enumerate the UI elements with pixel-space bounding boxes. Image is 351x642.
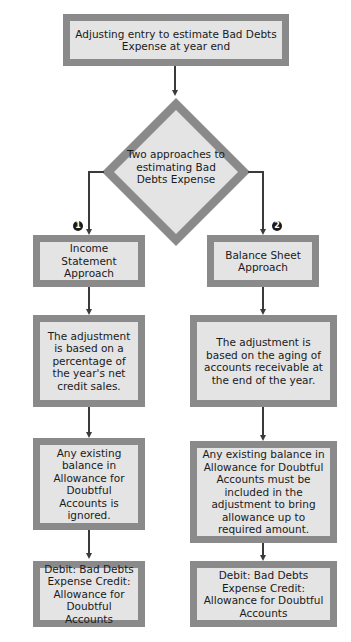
badge-2-icon: 2 — [272, 221, 282, 231]
decision-text: Two approaches to estimating Bad Debts E… — [120, 148, 232, 186]
basis-text: The adjustment is based on a percentage … — [40, 322, 138, 400]
connector-start-to-decision — [174, 66, 176, 92]
income-journal-entry-box: Debit: Bad Debts Expense Credit: Allowan… — [33, 561, 145, 627]
connector — [88, 407, 90, 434]
connector-right-vertical — [262, 171, 264, 231]
approach-label: Balance Sheet Approach — [214, 242, 312, 280]
balance-sheet-approach-box: Balance Sheet Approach — [207, 235, 319, 287]
connector — [88, 287, 90, 311]
balance-journal-entry-box: Debit: Bad Debts Expense Credit: Allowan… — [190, 561, 337, 627]
arrowhead-icon — [86, 553, 92, 559]
income-statement-approach-box: Income Statement Approach — [33, 235, 145, 287]
basis-text: The adjustment is based on the aging of … — [197, 322, 330, 400]
income-existing-balance-box: Any existing balance in Allowance for Do… — [33, 438, 145, 530]
balance-basis-box: The adjustment is based on the aging of … — [190, 315, 337, 407]
journal-entry-text: Debit: Bad Debts Expense Credit: Allowan… — [40, 568, 138, 620]
existing-balance-text: Any existing balance in Allowance for Do… — [197, 448, 330, 536]
start-box-text: Adjusting entry to estimate Bad Debts Ex… — [70, 21, 282, 59]
income-basis-box: The adjustment is based on a percentage … — [33, 315, 145, 407]
existing-balance-text: Any existing balance in Allowance for Do… — [40, 445, 138, 523]
connector-left-horizontal — [88, 171, 104, 173]
connector — [262, 287, 264, 311]
connector-left-vertical — [88, 171, 90, 231]
approach-label: Income Statement Approach — [40, 242, 138, 280]
start-box: Adjusting entry to estimate Bad Debts Ex… — [63, 14, 289, 66]
journal-entry-text: Debit: Bad Debts Expense Credit: Allowan… — [197, 568, 330, 620]
connector — [88, 530, 90, 555]
badge-1-icon: 1 — [73, 221, 83, 231]
connector — [262, 407, 264, 437]
balance-existing-balance-box: Any existing balance in Allowance for Do… — [190, 441, 337, 543]
